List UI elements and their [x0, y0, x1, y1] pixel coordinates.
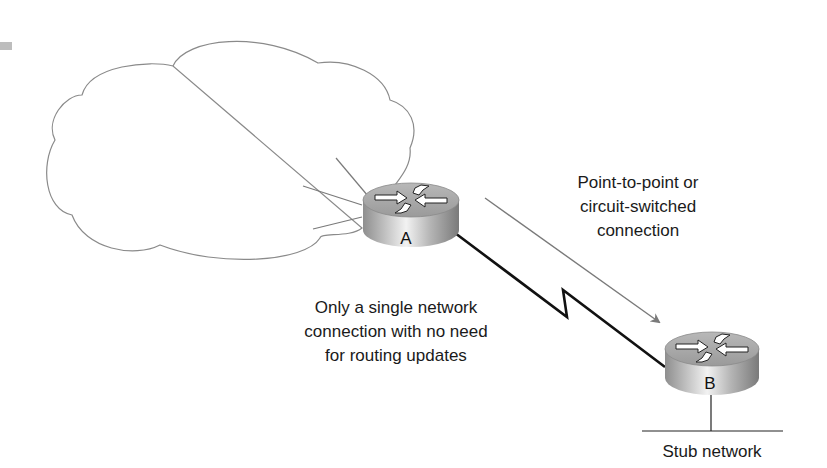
- router-a-label: A: [400, 229, 412, 248]
- link-type-annotation: Point-to-point or circuit-switched conne…: [548, 171, 728, 243]
- single-connection-annotation: Only a single network connection with no…: [286, 296, 506, 368]
- stub-network-label: Stub network: [642, 440, 782, 464]
- router-b[interactable]: B: [665, 332, 759, 395]
- annotation-line: Only a single network: [286, 296, 506, 320]
- annotation-line: for routing updates: [286, 344, 506, 368]
- annotation-line: circuit-switched: [548, 195, 728, 219]
- stub-network-text: Stub network: [642, 440, 782, 464]
- annotation-line: Point-to-point or: [548, 171, 728, 195]
- router-a[interactable]: A: [363, 183, 459, 248]
- network-cloud: [47, 41, 414, 259]
- annotation-line: connection with no need: [286, 320, 506, 344]
- annotation-line: connection: [548, 219, 728, 243]
- router-b-label: B: [704, 374, 715, 393]
- stub-network-segment: [642, 395, 783, 431]
